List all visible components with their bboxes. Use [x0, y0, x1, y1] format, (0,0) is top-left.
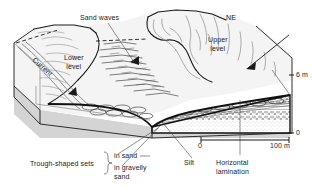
block-diagram-figure: Sand waves Lower level Upper level Curre…	[0, 0, 313, 187]
label-horizontal-lamination: Horizontal lamination	[216, 159, 249, 176]
label-sand-waves: Sand waves	[80, 14, 119, 23]
label-in-sand: in sand	[114, 152, 137, 161]
label-vertical-scale-bottom: 0	[296, 129, 300, 138]
label-horizontal-scale-right: 100 m	[270, 142, 290, 151]
diagram-canvas	[0, 0, 313, 187]
label-in-gravelly-sand: in gravelly sand	[114, 164, 147, 181]
label-trough-shaped-sets: Trough-shaped sets	[30, 160, 94, 169]
label-silt: Silt	[184, 159, 194, 168]
label-vertical-scale-top: 6 m	[296, 71, 308, 80]
label-horizontal-scale-left: 0	[198, 142, 202, 151]
label-upper-level: Upper level	[208, 36, 228, 53]
label-ne: NE	[226, 14, 236, 23]
label-lower-level: Lower level	[64, 54, 84, 71]
